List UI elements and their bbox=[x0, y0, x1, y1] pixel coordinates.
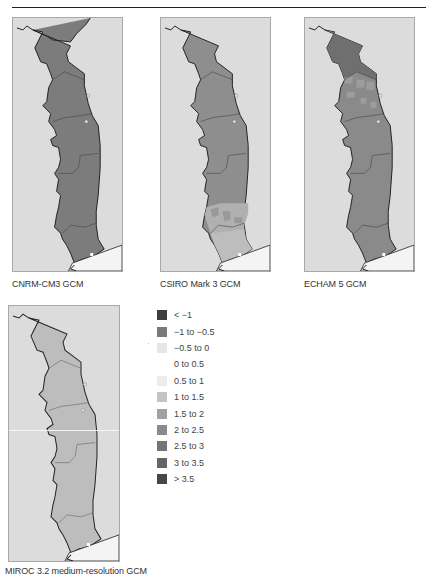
legend-swatch bbox=[157, 359, 167, 369]
legend-label: 1.5 to 2 bbox=[174, 409, 204, 419]
legend-swatch bbox=[157, 409, 167, 419]
legend-label: −0.5 to 0 bbox=[174, 343, 209, 353]
legend-item: 1 to 1.5 bbox=[157, 389, 215, 405]
legend-item: < −1 bbox=[157, 307, 215, 323]
caption-csiro: CSIRO Mark 3 GCM bbox=[160, 279, 240, 289]
togo-map-csiro bbox=[161, 18, 270, 271]
legend-label: > 3.5 bbox=[174, 474, 194, 484]
legend-swatch bbox=[157, 425, 167, 435]
caption-cnrm: CNRM-CM3 GCM bbox=[12, 279, 83, 289]
map-miroc bbox=[8, 305, 120, 562]
togo-map-echam bbox=[305, 18, 414, 271]
legend-label: 0.5 to 1 bbox=[174, 376, 204, 386]
legend-swatch bbox=[157, 474, 167, 484]
map-csiro bbox=[160, 17, 271, 272]
togo-map-cnrm bbox=[13, 18, 122, 271]
stray-mark bbox=[148, 343, 149, 344]
legend-swatch bbox=[157, 458, 167, 468]
legend-swatch bbox=[157, 310, 167, 320]
legend-swatch bbox=[157, 392, 167, 402]
legend-swatch bbox=[157, 441, 167, 451]
map-echam bbox=[304, 17, 415, 272]
caption-miroc: MIROC 3.2 medium-resolution GCM bbox=[5, 566, 147, 576]
legend-item: 0 to 0.5 bbox=[157, 356, 215, 372]
legend-item: > 3.5 bbox=[157, 471, 215, 487]
legend-label: 2.5 to 3 bbox=[174, 441, 204, 451]
legend-label: 0 to 0.5 bbox=[174, 359, 204, 369]
legend-label: 1 to 1.5 bbox=[174, 392, 204, 402]
legend-item: −0.5 to 0 bbox=[157, 340, 215, 356]
caption-echam: ECHAM 5 GCM bbox=[304, 279, 366, 289]
togo-map-miroc bbox=[9, 306, 119, 561]
legend-item: −1 to −0.5 bbox=[157, 323, 215, 339]
legend-item: 1.5 to 2 bbox=[157, 405, 215, 421]
legend-label: 2 to 2.5 bbox=[174, 425, 204, 435]
legend-swatch bbox=[157, 343, 167, 353]
legend-item: 3 to 3.5 bbox=[157, 455, 215, 471]
legend-swatch bbox=[157, 327, 167, 337]
legend-label: < −1 bbox=[174, 310, 192, 320]
legend-item: 0.5 to 1 bbox=[157, 373, 215, 389]
map-cnrm bbox=[12, 17, 123, 272]
legend-label: −1 to −0.5 bbox=[174, 327, 215, 337]
legend-swatch bbox=[157, 376, 167, 386]
header-rule bbox=[12, 7, 426, 8]
legend-label: 3 to 3.5 bbox=[174, 458, 204, 468]
legend: < −1 −1 to −0.5 −0.5 to 0 0 to 0.5 0.5 t… bbox=[157, 307, 215, 487]
legend-item: 2.5 to 3 bbox=[157, 438, 215, 454]
legend-item: 2 to 2.5 bbox=[157, 422, 215, 438]
